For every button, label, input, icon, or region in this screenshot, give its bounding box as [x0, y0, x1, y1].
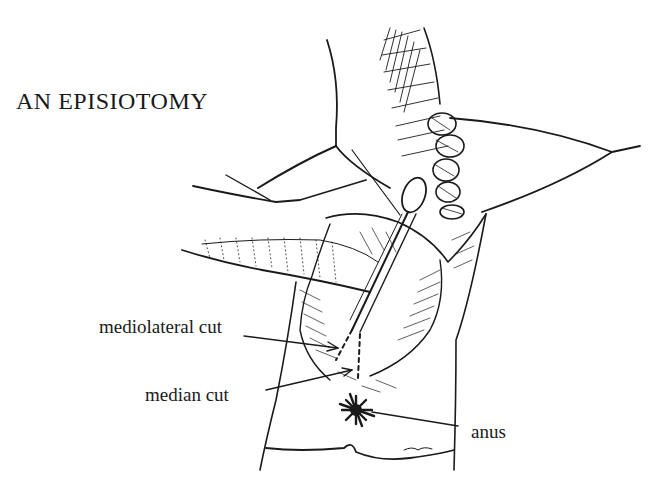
episiotomy-illustration [0, 0, 662, 500]
label-anus: anus [471, 421, 506, 443]
labia-outline [326, 214, 486, 262]
median-cut-line [358, 334, 360, 378]
label-mediolateral-cut: mediolateral cut [99, 316, 222, 338]
mediolateral-leader [244, 336, 338, 348]
left-hand-stipple [205, 238, 336, 282]
right-thigh-outline [450, 118, 640, 152]
upper-arm-outline [327, 40, 390, 188]
gluteal-fold [266, 445, 454, 459]
upper-hand-hatching [380, 28, 448, 156]
label-median-cut: median cut [145, 384, 229, 406]
left-hand-outline [182, 250, 370, 292]
median-leader [266, 370, 352, 390]
anus-leader [372, 412, 458, 426]
artist-signature [404, 448, 432, 450]
left-thigh-outline [258, 146, 336, 188]
scissors [350, 174, 430, 332]
diagram-canvas: AN EPISIOTOMY [0, 0, 662, 500]
left-leg-outline [260, 282, 296, 470]
mediolateral-cut-line [336, 330, 352, 360]
fist-knuckles [428, 113, 464, 219]
